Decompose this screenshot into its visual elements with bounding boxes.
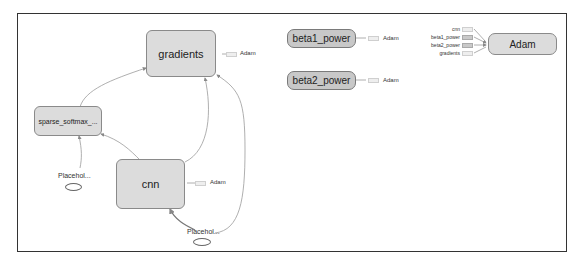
adam-input-beta1-power: beta1_power bbox=[420, 34, 460, 40]
adam-input-stub-beta1 bbox=[462, 35, 473, 40]
adam-input-gradients: gradients bbox=[420, 50, 460, 56]
node-gradients-label: gradients bbox=[158, 48, 203, 60]
node-adam[interactable]: Adam bbox=[488, 33, 557, 55]
adam-input-cnn: cnn bbox=[430, 26, 460, 32]
node-beta2-power[interactable]: beta2_power bbox=[287, 71, 356, 90]
aux-stub-beta2 bbox=[368, 78, 379, 83]
node-sparse-softmax[interactable]: sparse_softmax_... bbox=[34, 106, 102, 136]
node-cnn[interactable]: cnn bbox=[116, 159, 185, 209]
adam-input-beta2-power: beta2_power bbox=[420, 42, 460, 48]
node-placeholder-2[interactable] bbox=[193, 238, 211, 246]
node-sparse-softmax-label: sparse_softmax_... bbox=[38, 118, 97, 125]
node-beta2-power-label: beta2_power bbox=[293, 75, 351, 86]
node-gradients[interactable]: gradients bbox=[146, 30, 216, 77]
node-beta1-power[interactable]: beta1_power bbox=[287, 29, 356, 48]
aux-label-beta1-adam: Adam bbox=[383, 35, 399, 41]
node-placeholder-2-label: Placehol... bbox=[187, 228, 220, 235]
aux-stub-gradients bbox=[226, 52, 237, 57]
adam-input-stub-cnn bbox=[462, 27, 473, 32]
node-adam-label: Adam bbox=[509, 39, 535, 50]
aux-label-beta2-adam: Adam bbox=[383, 77, 399, 83]
aux-stub-cnn bbox=[195, 181, 206, 186]
node-cnn-label: cnn bbox=[142, 178, 160, 190]
node-placeholder-1-label: Placehol... bbox=[58, 172, 91, 179]
adam-input-stub-gradients bbox=[462, 51, 473, 56]
aux-label-cnn-adam: Adam bbox=[210, 179, 226, 185]
adam-input-stub-beta2 bbox=[462, 43, 473, 48]
node-beta1-power-label: beta1_power bbox=[293, 33, 351, 44]
aux-stub-beta1 bbox=[368, 36, 379, 41]
aux-label-gradients-adam: Adam bbox=[240, 50, 256, 56]
node-placeholder-1[interactable] bbox=[65, 183, 82, 191]
